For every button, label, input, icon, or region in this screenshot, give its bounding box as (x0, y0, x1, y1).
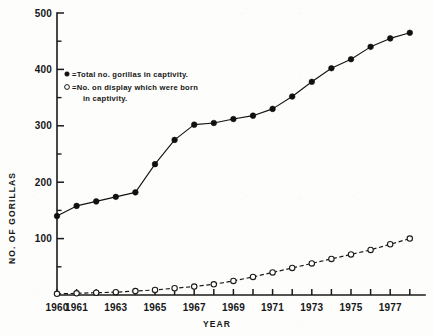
data-point-marker (348, 252, 353, 257)
data-point-marker (152, 161, 158, 167)
data-point-marker (191, 122, 197, 128)
data-point-marker (133, 190, 139, 196)
legend-entry-total-label: =Total no. gorillas in captivity. (72, 70, 188, 79)
legend-entry-born-label-line2: in captivity. (83, 94, 127, 103)
gorillas-line-chart: 100200300400500 196019611963196519671969… (0, 0, 434, 335)
data-point-marker (388, 242, 393, 247)
series-born-in-captivity-line (57, 239, 410, 294)
x-tick-label: 1969 (222, 302, 245, 313)
data-point-marker (270, 106, 276, 112)
x-axis-ticks (57, 289, 410, 295)
data-point-marker (74, 291, 79, 296)
data-point-marker (172, 286, 177, 291)
data-point-marker (348, 56, 354, 62)
data-point-marker (250, 113, 256, 119)
data-point-marker (211, 120, 217, 126)
data-point-marker (74, 203, 80, 209)
data-point-marker (309, 79, 315, 85)
y-tick-label: 200 (35, 177, 53, 188)
series-total-gorillas (54, 30, 412, 219)
y-axis-title: NO. OF GORILLAS (7, 172, 17, 264)
data-point-marker (211, 282, 216, 287)
legend-open-circle-icon (65, 85, 70, 90)
data-point-marker (250, 274, 255, 279)
data-point-marker (329, 256, 334, 261)
data-point-marker (133, 288, 138, 293)
x-tick-label: 1961 (65, 302, 88, 313)
legend-filled-circle-icon (65, 72, 70, 77)
y-tick-label: 500 (35, 8, 53, 19)
x-tick-label: 1975 (339, 302, 362, 313)
x-tick-label: 1971 (261, 302, 284, 313)
y-tick-label: 100 (35, 233, 53, 244)
legend-entry-born-label: =No. on display which were born (72, 83, 198, 92)
data-point-marker (289, 94, 295, 100)
y-axis-ticks (57, 13, 64, 267)
series-born-in-captivity (54, 236, 412, 297)
chart-legend: =Total no. gorillas in captivity. =No. o… (65, 70, 199, 103)
y-axis-tick-labels: 100200300400500 (35, 8, 53, 245)
series-total-gorillas-markers (54, 30, 412, 219)
x-axis-title: YEAR (203, 319, 231, 329)
x-tick-label: 1965 (143, 302, 166, 313)
data-point-marker (192, 284, 197, 289)
data-point-marker (329, 65, 335, 71)
chart-figure: 100200300400500 196019611963196519671969… (0, 0, 434, 335)
data-point-marker (231, 278, 236, 283)
x-tick-label: 1967 (183, 302, 206, 313)
y-tick-label: 400 (35, 64, 53, 75)
data-point-marker (368, 44, 374, 50)
x-tick-label: 1973 (300, 302, 323, 313)
x-tick-label: 1977 (379, 302, 402, 313)
x-axis-tick-labels: 1960196119631965196719691971197319751977 (45, 302, 401, 313)
x-tick-label: 1963 (104, 302, 127, 313)
data-point-marker (54, 291, 59, 296)
data-point-marker (290, 265, 295, 270)
data-point-marker (94, 290, 99, 295)
data-point-marker (113, 194, 119, 200)
data-point-marker (309, 261, 314, 266)
data-point-marker (152, 287, 157, 292)
series-born-in-captivity-markers (54, 236, 412, 297)
series-total-gorillas-line (57, 33, 410, 216)
data-point-marker (54, 213, 60, 219)
data-point-marker (407, 30, 413, 36)
data-point-marker (93, 199, 99, 205)
y-tick-label: 300 (35, 120, 53, 131)
data-point-marker (368, 247, 373, 252)
data-point-marker (113, 289, 118, 294)
data-point-marker (231, 116, 237, 122)
data-point-marker (172, 137, 178, 143)
data-point-marker (387, 36, 393, 42)
data-point-marker (270, 270, 275, 275)
data-point-marker (407, 236, 412, 241)
